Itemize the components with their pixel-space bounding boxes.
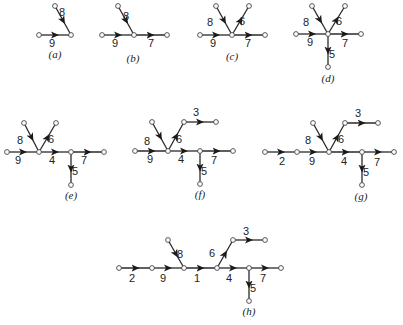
subfigures-group: 89(a)897(b)8697(c)86975(d)869475(e)86394…: [5, 4, 397, 318]
edge-label: 4: [341, 155, 347, 167]
graph-node: [182, 266, 187, 271]
subfigure-caption: (h): [243, 305, 256, 318]
graph-node: [214, 120, 219, 125]
graph-node: [214, 4, 219, 9]
graph-node: [69, 183, 74, 188]
subfigure-caption: (f): [195, 188, 206, 201]
edge-label: 9: [147, 153, 153, 165]
graph-node: [327, 150, 332, 155]
edge-label: 6: [48, 133, 54, 145]
graph-node: [247, 266, 252, 271]
graph-node: [247, 4, 252, 9]
subfigure-caption: (d): [322, 72, 335, 85]
edge-label: 8: [59, 6, 65, 18]
edge-label: 7: [81, 154, 87, 166]
subfigure-f: 8639475(f): [133, 106, 236, 201]
edge-label: 7: [148, 37, 154, 49]
graph-node: [231, 238, 236, 243]
graph-node: [279, 266, 284, 271]
subfigure-h: 863291475(h): [117, 225, 284, 318]
subfigure-a: 89(a): [37, 4, 74, 61]
edge-label: 5: [329, 48, 335, 60]
graph-node: [5, 150, 10, 155]
subfigure-b: 897(b): [100, 4, 170, 65]
edge-label: 8: [303, 16, 309, 28]
edge-label: 5: [250, 282, 256, 294]
edge-label: 8: [123, 10, 129, 22]
edge-label: 7: [245, 37, 251, 49]
edge-6: [217, 240, 233, 268]
subfigure-caption: (e): [65, 189, 78, 202]
subfigure-g: 86329475(g): [263, 107, 397, 203]
edge-8: [24, 123, 39, 152]
edge-8: [313, 123, 329, 152]
graph-node: [231, 149, 236, 154]
graph-node: [100, 33, 105, 38]
graph-node: [54, 121, 59, 126]
graph-node: [263, 238, 268, 243]
edge-label: 6: [176, 133, 182, 145]
edge-label: 2: [279, 155, 285, 167]
edge-label: 4: [49, 154, 55, 166]
subfigure-caption: (c): [226, 50, 239, 63]
subfigure-caption: (a): [49, 48, 62, 61]
edge-label: 3: [193, 106, 199, 118]
graph-node: [310, 4, 315, 9]
graph-node: [150, 266, 155, 271]
edge-label: 6: [336, 15, 342, 27]
edge-label: 7: [342, 37, 348, 49]
graph-node: [198, 182, 203, 187]
graph-node: [166, 238, 171, 243]
edge-label: 7: [211, 154, 217, 166]
edge-8: [312, 6, 328, 34]
graph-node: [198, 149, 203, 154]
edge-label: 7: [260, 272, 266, 284]
subfigure-c: 8697(c): [198, 4, 268, 63]
edge-label: 4: [226, 272, 232, 284]
edge-label: 8: [144, 135, 150, 147]
graph-node: [102, 150, 107, 155]
edge-label: 5: [72, 165, 78, 177]
graph-node: [132, 33, 137, 38]
graph-node: [247, 299, 252, 304]
graph-node: [230, 33, 235, 38]
graph-node: [198, 33, 203, 38]
graph-node: [37, 33, 42, 38]
graph-node: [263, 33, 268, 38]
edge-label: 3: [355, 107, 361, 119]
edge-label: 8: [305, 134, 311, 146]
graph-node: [53, 4, 58, 9]
graph-node: [359, 32, 364, 37]
graph-node: [116, 4, 121, 9]
graph-node: [133, 149, 138, 154]
graph-node: [182, 120, 187, 125]
edge-label: 8: [17, 134, 23, 146]
edge-label: 6: [209, 247, 215, 259]
edge-label: 7: [374, 156, 380, 168]
graph-node: [294, 32, 299, 37]
graph-node: [360, 150, 365, 155]
edge-8: [152, 122, 168, 151]
edge-label: 9: [160, 272, 166, 284]
graph-node: [326, 32, 331, 37]
subfigure-d: 86975(d): [294, 4, 364, 85]
graph-node: [295, 150, 300, 155]
edge-label: 8: [177, 248, 183, 260]
graph-node: [69, 150, 74, 155]
subfigure-caption: (g): [355, 190, 368, 203]
graph-node: [392, 150, 397, 155]
edge-label: 5: [201, 165, 207, 177]
edge-label: 1: [194, 272, 200, 284]
graph-node: [165, 33, 170, 38]
edge-label: 9: [309, 155, 315, 167]
edge-label: 4: [178, 153, 184, 165]
edge-label: 6: [338, 133, 344, 145]
edge-label: 9: [210, 37, 216, 49]
graph-node: [215, 266, 220, 271]
graph-node: [117, 266, 122, 271]
graph-node: [69, 33, 74, 38]
graph-node: [166, 149, 171, 154]
graph-node: [343, 4, 348, 9]
graph-node: [326, 65, 331, 70]
edge-label: 3: [243, 225, 249, 237]
